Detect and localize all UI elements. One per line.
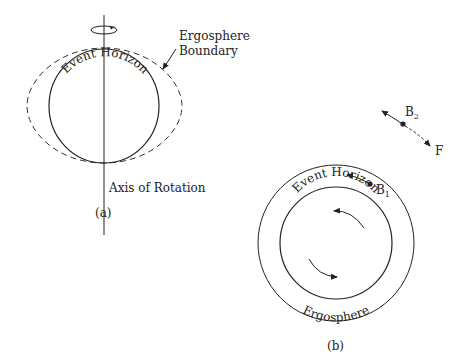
caption-b: (b) [327,339,344,353]
figure-b: Event Horizon Ergosphere B1 B2 F (b) [258,105,443,353]
b2-arrow [382,111,401,123]
ergosphere-label-line1: Ergosphere [179,29,250,43]
event-horizon-label: Event Horizon [59,45,152,76]
particle-b1 [367,181,372,186]
rotation-arrow-lower [309,259,337,277]
b1-label: B1 [376,183,390,199]
ergosphere-label-b: Ergosphere [301,303,372,325]
f-label: F [435,144,443,158]
event-horizon-label-b: Event Horizon [289,165,382,196]
kerr-black-hole-diagram: Event Horizon Ergosphere Boundary Axis o… [0,0,466,362]
ergosphere-label-line2: Boundary [179,44,238,58]
ergosphere-outer-circle [258,165,414,321]
b2-label: B2 [405,105,419,121]
figure-a: Event Horizon Ergosphere Boundary Axis o… [27,15,250,235]
rotation-arrow-upper [334,211,364,228]
axis-label: Axis of Rotation [108,181,206,195]
ergosphere-pointer [163,49,176,69]
event-horizon-circle [280,187,392,299]
particle-b2 [400,121,405,126]
f-arrow [405,126,430,146]
caption-a: (a) [95,206,112,220]
